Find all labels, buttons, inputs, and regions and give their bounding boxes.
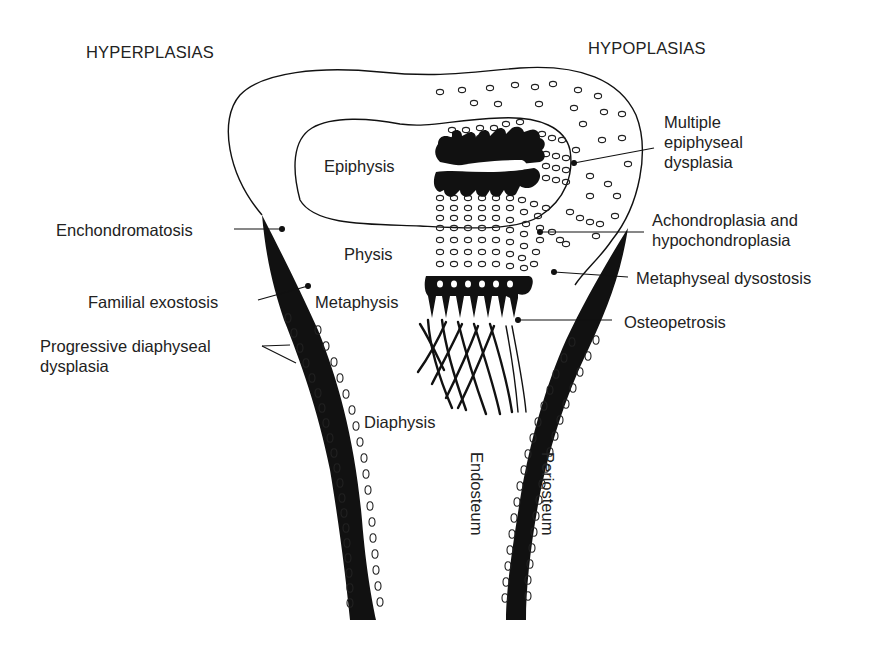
label-achondroplasia-hypochondroplasia: Achondroplasia and hypochondroplasia bbox=[652, 210, 798, 250]
left-cortex bbox=[262, 215, 376, 620]
epiphysis-label: Epiphysis bbox=[324, 156, 395, 176]
hypoplasias-header: HYPOPLASIAS bbox=[588, 38, 706, 58]
label-metaphyseal-dysostosis: Metaphyseal dysostosis bbox=[636, 268, 811, 288]
bone-dysplasia-diagram: HYPERPLASIAS HYPOPLASIAS Epiphysis Physi… bbox=[0, 0, 880, 646]
label-enchondromatosis: Enchondromatosis bbox=[56, 220, 193, 240]
label-osteopetrosis: Osteopetrosis bbox=[624, 312, 726, 332]
diaphyseal-trabeculae bbox=[418, 320, 526, 414]
periosteum-label: Periosteum bbox=[538, 452, 558, 535]
physis-label: Physis bbox=[344, 244, 393, 264]
label-progressive-diaphyseal-dysplasia: Progressive diaphyseal dysplasia bbox=[40, 336, 211, 376]
hyperplasias-header: HYPERPLASIAS bbox=[86, 42, 214, 62]
endosteum-label: Endosteum bbox=[467, 452, 487, 535]
bone-illustration bbox=[0, 0, 880, 646]
label-familial-exostosis: Familial exostosis bbox=[88, 292, 218, 312]
label-multiple-epiphyseal-dysplasia: Multiple epiphyseal dysplasia bbox=[664, 112, 743, 172]
metaphysis-label: Metaphysis bbox=[315, 292, 398, 312]
diaphysis-label: Diaphysis bbox=[364, 412, 436, 432]
